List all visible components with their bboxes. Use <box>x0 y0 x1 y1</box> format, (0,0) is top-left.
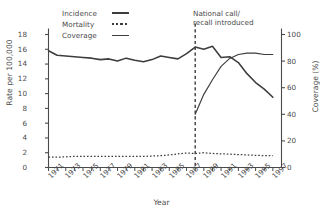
series-line-coverage <box>195 53 273 114</box>
figure: Incidence Mortality Coverage National ca… <box>0 0 323 220</box>
plot-area <box>0 0 323 220</box>
series-line-mortality <box>49 153 273 157</box>
